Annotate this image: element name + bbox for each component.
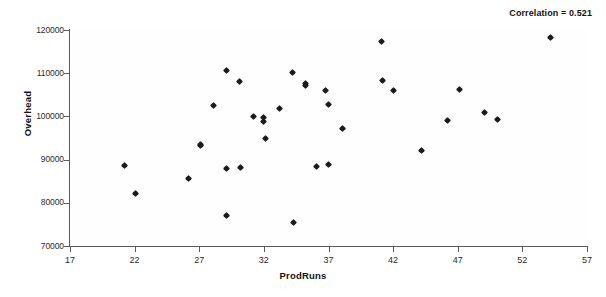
x-tick-label: 27 bbox=[184, 255, 214, 265]
y-axis-title: Overhead bbox=[22, 74, 33, 154]
x-tick-label: 32 bbox=[249, 255, 279, 265]
y-tick-label: 110000 bbox=[6, 69, 64, 78]
x-tick-mark bbox=[458, 246, 459, 252]
x-tick-label: 22 bbox=[120, 255, 150, 265]
y-tick-mark bbox=[64, 160, 70, 161]
correlation-annotation: Correlation = 0.521 bbox=[509, 8, 592, 18]
y-tick-mark bbox=[64, 203, 70, 204]
scatter-chart: 700008000090000100000110000120000 172227… bbox=[0, 0, 606, 297]
plot-area bbox=[70, 30, 587, 246]
x-tick-mark bbox=[264, 246, 265, 252]
x-tick-mark bbox=[199, 246, 200, 252]
y-tick-mark bbox=[64, 116, 70, 117]
x-tick-label: 17 bbox=[55, 255, 85, 265]
x-tick-label: 52 bbox=[507, 255, 537, 265]
x-tick-label: 57 bbox=[572, 255, 602, 265]
y-axis-line bbox=[69, 29, 70, 247]
x-tick-label: 47 bbox=[443, 255, 473, 265]
x-tick-mark bbox=[329, 246, 330, 252]
y-tick-mark bbox=[64, 73, 70, 74]
y-tick-label: 100000 bbox=[6, 112, 64, 121]
y-tick-label: 120000 bbox=[6, 26, 64, 35]
y-tick-label: 70000 bbox=[6, 242, 64, 251]
x-tick-label: 37 bbox=[314, 255, 344, 265]
x-tick-label: 42 bbox=[378, 255, 408, 265]
x-tick-mark bbox=[135, 246, 136, 252]
y-tick-mark bbox=[64, 30, 70, 31]
x-tick-mark bbox=[522, 246, 523, 252]
y-tick-label: 80000 bbox=[6, 198, 64, 207]
x-tick-mark bbox=[393, 246, 394, 252]
x-tick-mark bbox=[70, 246, 71, 252]
x-tick-mark bbox=[587, 246, 588, 252]
y-tick-label: 90000 bbox=[6, 155, 64, 164]
x-axis-title: ProdRuns bbox=[0, 270, 606, 281]
